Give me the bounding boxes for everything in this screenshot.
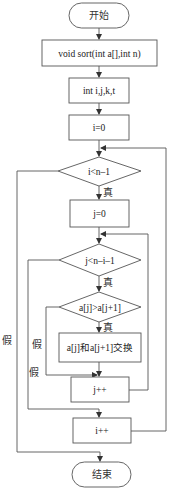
node-cond-j: j<n–i–1 xyxy=(59,244,141,276)
flowchart: 开始 void sort(int a[],int n) int i,j,k,t … xyxy=(0,0,170,498)
edge-label-false-i: 假 xyxy=(2,334,12,346)
end-label: 结束 xyxy=(92,468,112,480)
inc-i-label: i++ xyxy=(95,426,108,436)
start-label: 开始 xyxy=(89,9,109,21)
edge-label-false-j: 假 xyxy=(29,366,39,378)
edge-label-true-i: 真 xyxy=(103,186,113,198)
node-swap: a[j]和a[j+1]交换 xyxy=(59,333,141,362)
func-label: void sort(int a[],int n) xyxy=(58,49,140,60)
inc-j-label: j++ xyxy=(92,385,106,395)
node-inc-j: j++ xyxy=(71,377,129,402)
node-init-i: i=0 xyxy=(69,115,129,140)
cond-j-label: j<n–i–1 xyxy=(84,256,115,266)
cond-i-label: i<n–1 xyxy=(88,167,110,177)
edge-label-true-cmp: 真 xyxy=(103,321,113,333)
decl-label: int i,j,k,t xyxy=(83,86,116,96)
init-i-label: i=0 xyxy=(93,123,106,133)
node-inc-i: i++ xyxy=(73,418,131,443)
edge-label-true-j: 真 xyxy=(103,276,113,288)
node-cond-cmp: a[j]>a[j+1] xyxy=(59,292,141,322)
node-start: 开始 xyxy=(69,3,129,28)
cond-cmp-label: a[j]>a[j+1] xyxy=(79,303,121,313)
node-decl: int i,j,k,t xyxy=(69,78,129,103)
edge-label-false-cmp: 假 xyxy=(32,338,42,350)
init-j-label: j=0 xyxy=(92,209,106,219)
node-end: 结束 xyxy=(72,462,131,487)
swap-label: a[j]和a[j+1]交换 xyxy=(67,342,133,353)
node-cond-i: i<n–1 xyxy=(58,157,141,186)
node-init-j: j=0 xyxy=(70,200,129,227)
node-func: void sort(int a[],int n) xyxy=(42,40,157,66)
